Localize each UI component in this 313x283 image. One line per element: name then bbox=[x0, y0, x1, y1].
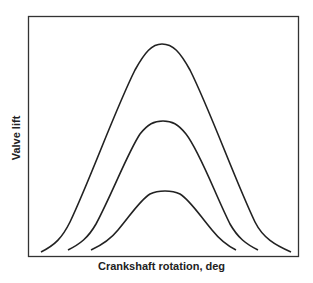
curve-medium-lift bbox=[68, 121, 258, 250]
x-axis-label: Crankshaft rotation, deg bbox=[0, 260, 313, 272]
curve-low-lift bbox=[91, 191, 236, 250]
curve-high-lift bbox=[41, 44, 291, 252]
y-axis-label: Valve lift bbox=[10, 108, 22, 168]
plot-frame bbox=[29, 17, 299, 257]
valve-lift-chart bbox=[0, 0, 313, 283]
